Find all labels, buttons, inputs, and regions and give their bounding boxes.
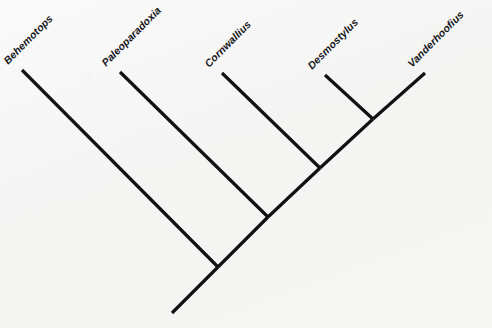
terminal-branch-cornwallius [222,73,320,168]
tree-branch-group [22,70,425,313]
terminal-branch-vanderhoofius [373,73,425,119]
cladogram-figure: Behemotops Paleoparadoxia Cornwallius De… [0,0,492,328]
terminal-branch-desmostylus [325,75,373,119]
internal-branch-node2-node3 [268,168,320,217]
terminal-branch-behemotops [22,70,218,267]
internal-branch-node3-node4 [320,119,373,168]
internal-branch-root-node2 [218,217,268,267]
terminal-branch-paleoparadoxia [120,72,268,217]
root-stem-line [172,267,218,313]
